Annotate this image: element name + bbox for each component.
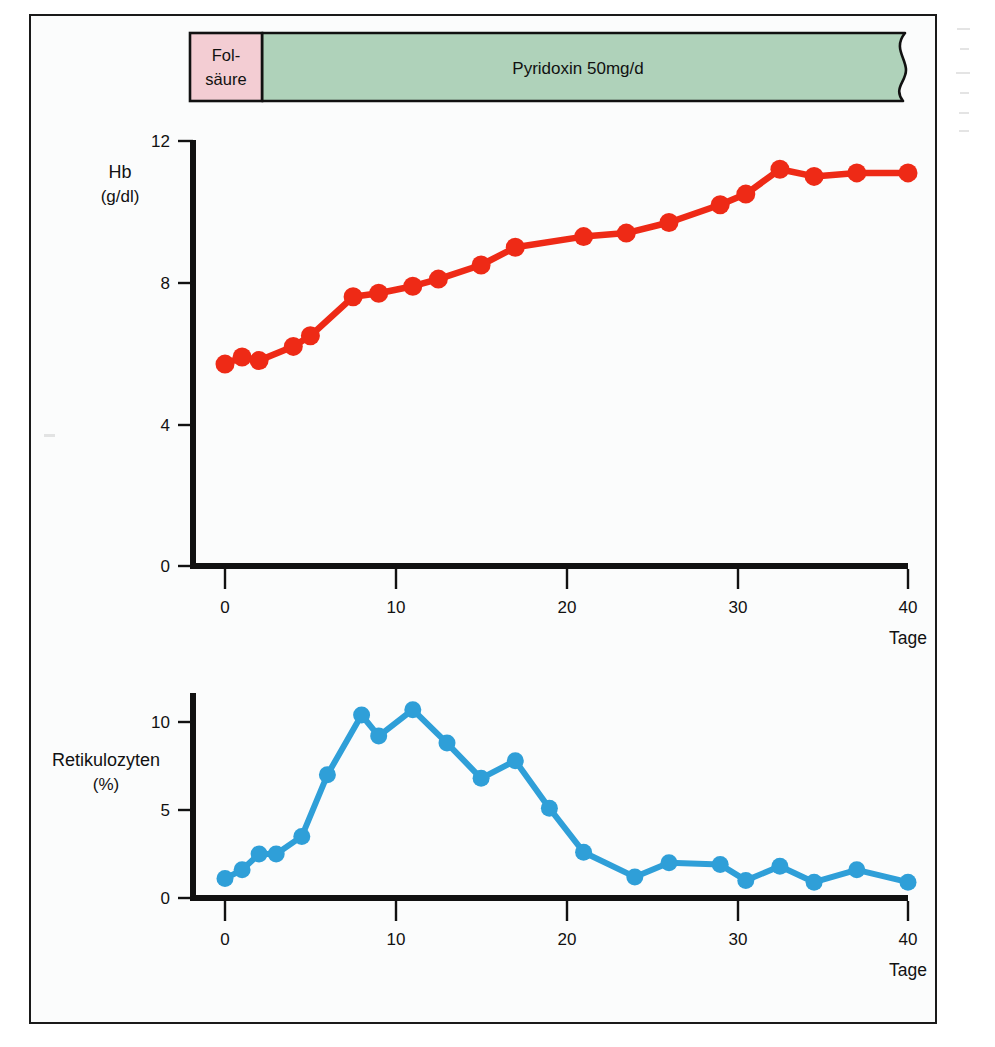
reticulocyte-series (217, 701, 917, 891)
folic-acid-label-line2: säure (205, 70, 246, 88)
hemoglobin-point (506, 238, 525, 257)
hemoglobin-point (344, 287, 363, 306)
retic-y-ticklabel-5: 5 (161, 801, 170, 820)
reticulocytes-point (353, 707, 370, 724)
reticulocytes-point (712, 856, 729, 873)
reticulocyte-panel: 10 5 0 Retikulozyten (%) 0 10 20 30 40 T… (52, 693, 927, 980)
hemoglobin-point (736, 185, 755, 204)
hemoglobin-point (770, 160, 789, 179)
reticulocytes-point (293, 828, 310, 845)
reticulocytes-point (737, 872, 754, 889)
hemoglobin-point (574, 227, 593, 246)
hemoglobin-point (899, 163, 918, 182)
retic-y-ticklabel-0: 0 (161, 889, 170, 908)
hemoglobin-point (660, 213, 679, 232)
reticulocytes-point (251, 846, 268, 863)
reticulocytes-point (404, 701, 421, 718)
retic-x-ticklabel-10: 10 (387, 930, 406, 949)
reticulocytes-point (473, 770, 490, 787)
hb-x-ticklabel-30: 30 (729, 598, 748, 617)
hb-axis-unit: (g/dl) (101, 187, 140, 206)
reticulocytes-point (439, 735, 456, 752)
hemoglobin-series (216, 160, 918, 374)
hb-x-ticklabel-0: 0 (220, 598, 229, 617)
hb-x-ticklabel-10: 10 (387, 598, 406, 617)
pyridoxine-label: Pyridoxin 50mg/d (512, 59, 643, 78)
reticulocytes-point (319, 766, 336, 783)
reticulocytes-point (507, 752, 524, 769)
reticulocytes-line (225, 710, 908, 883)
retic-x-ticklabel-20: 20 (558, 930, 577, 949)
reticulocytes-point (661, 854, 678, 871)
hemoglobin-point (617, 224, 636, 243)
retic-x-ticklabel-30: 30 (729, 930, 748, 949)
hb-y-ticklabel-0: 0 (161, 557, 170, 576)
retic-x-ticklabel-0: 0 (220, 930, 229, 949)
reticulocytes-point (900, 874, 917, 891)
hemoglobin-point (301, 326, 320, 345)
reticulocytes-point (848, 861, 865, 878)
hemoglobin-point (284, 337, 303, 356)
reticulocytes-point (771, 858, 788, 875)
hb-x-axis-label: Tage (889, 628, 927, 648)
hemoglobin-point (216, 355, 235, 374)
hemoglobin-point (711, 195, 730, 214)
hemoglobin-line (225, 169, 908, 364)
retic-y-ticklabel-10: 10 (151, 713, 170, 732)
retic-x-axis-label: Tage (889, 960, 927, 980)
hemoglobin-point (250, 351, 269, 370)
hemoglobin-point (847, 163, 866, 182)
reticulocytes-point (217, 870, 234, 887)
folic-acid-segment (190, 33, 262, 101)
reticulocytes-point (626, 868, 643, 885)
hb-x-ticklabel-40: 40 (899, 598, 918, 617)
retic-axis-title: Retikulozyten (52, 750, 160, 770)
hb-y-ticklabel-12: 12 (151, 132, 170, 151)
figure-svg: Fol- säure Pyridoxin 50mg/d 12 8 4 0 Hb … (0, 0, 995, 1047)
hemoglobin-point (403, 277, 422, 296)
folic-acid-label-line1: Fol- (212, 46, 240, 64)
hemoglobin-point (472, 256, 491, 275)
reticulocytes-point (575, 844, 592, 861)
hemoglobin-point (233, 348, 252, 367)
reticulocytes-point (541, 800, 558, 817)
hemoglobin-point (805, 167, 824, 186)
retic-x-ticklabel-40: 40 (899, 930, 918, 949)
hemoglobin-point (369, 284, 388, 303)
treatment-bar: Fol- säure Pyridoxin 50mg/d (190, 33, 906, 101)
reticulocytes-point (370, 728, 387, 745)
hb-y-ticklabel-4: 4 (161, 416, 170, 435)
hb-axis-title: Hb (108, 162, 131, 182)
hb-y-ticklabel-8: 8 (161, 274, 170, 293)
reticulocytes-point (268, 846, 285, 863)
hemoglobin-panel: 12 8 4 0 Hb (g/dl) 0 10 20 30 40 Tage (101, 132, 927, 648)
hb-x-ticklabel-20: 20 (558, 598, 577, 617)
reticulocytes-point (806, 874, 823, 891)
retic-axis-unit: (%) (93, 775, 119, 794)
hemoglobin-point (429, 270, 448, 289)
reticulocytes-point (234, 861, 251, 878)
